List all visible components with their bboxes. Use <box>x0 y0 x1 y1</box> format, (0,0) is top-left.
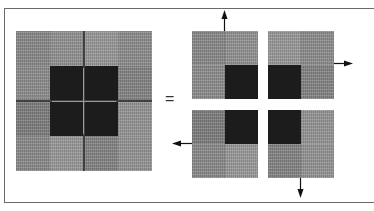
arrow-down-icon <box>0 0 365 211</box>
